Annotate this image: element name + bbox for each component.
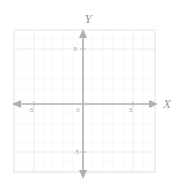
- y-axis-label: Y: [84, 11, 93, 26]
- tick-label-x-neg5: -5: [28, 107, 34, 113]
- tick-label-y-neg5: -5: [74, 149, 80, 155]
- coordinate-plane-svg: -5 5 5 -5 0 Y X: [0, 0, 177, 185]
- x-axis-label: X: [162, 96, 172, 111]
- coordinate-plane-figure: -5 5 5 -5 0 Y X: [0, 0, 177, 185]
- plot-background: [14, 30, 155, 172]
- y-axis-arrow-down: [79, 170, 87, 179]
